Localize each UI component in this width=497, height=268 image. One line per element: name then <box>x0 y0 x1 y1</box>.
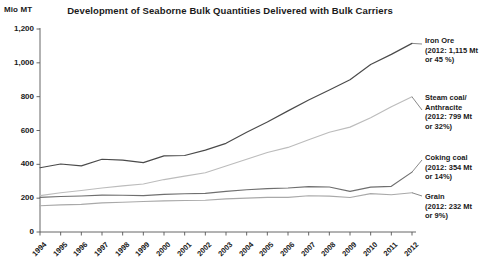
series-line-steam-coal-anthracite <box>40 97 412 196</box>
y-axis-tick-label: 400 <box>0 159 34 168</box>
series-line-coking-coal <box>40 172 412 197</box>
leader-line-grain <box>412 193 422 196</box>
annotation-grain: Grain (2012: 232 Mt or 9%) <box>425 192 472 221</box>
annotation-grain-line3: or 9%) <box>425 211 472 221</box>
y-axis-tick-label: 200 <box>0 193 34 202</box>
annotation-coking-coal-line3: or 14%) <box>425 172 472 182</box>
annotation-iron-ore-line2: (2012: 1,115 Mt <box>425 46 478 56</box>
y-axis-tick-label: 0 <box>0 227 34 236</box>
series-line-grain <box>40 193 412 206</box>
annotation-steam-coal-line3: (2012: 799 Mt <box>425 112 472 122</box>
annotation-steam-coal-line1: Steam coal/ <box>425 93 472 103</box>
series-line-iron-ore <box>40 43 412 167</box>
annotation-iron-ore-line3: or 45 %) <box>425 55 478 65</box>
leader-line-steam-coal-anthracite <box>412 97 422 110</box>
annotation-steam-coal-line4: or 32%) <box>425 122 472 132</box>
y-axis-tick-label: 1,200 <box>0 24 34 33</box>
leader-line-coking-coal <box>412 160 422 172</box>
chart-root: Mio MT Development of Seaborne Bulk Quan… <box>0 0 497 268</box>
annotation-iron-ore-line1: Iron Ore <box>425 36 478 46</box>
y-axis-tick-label: 800 <box>0 92 34 101</box>
leader-line-iron-ore <box>412 43 422 44</box>
annotation-grain-line2: (2012: 232 Mt <box>425 202 472 212</box>
annotation-steam-coal-line2: Anthracite <box>425 103 472 113</box>
annotation-iron-ore: Iron Ore (2012: 1,115 Mt or 45 %) <box>425 36 478 65</box>
annotation-coking-coal-line1: Coking coal <box>425 153 472 163</box>
y-axis-tick-label: 600 <box>0 126 34 135</box>
plot-area <box>0 0 497 268</box>
annotation-coking-coal-line2: (2012: 354 Mt <box>425 163 472 173</box>
y-axis-tick-label: 1,000 <box>0 58 34 67</box>
annotation-coking-coal: Coking coal (2012: 354 Mt or 14%) <box>425 153 472 182</box>
annotation-steam-coal: Steam coal/ Anthracite (2012: 799 Mt or … <box>425 93 472 131</box>
annotation-grain-line1: Grain <box>425 192 472 202</box>
chart-svg <box>0 0 497 268</box>
